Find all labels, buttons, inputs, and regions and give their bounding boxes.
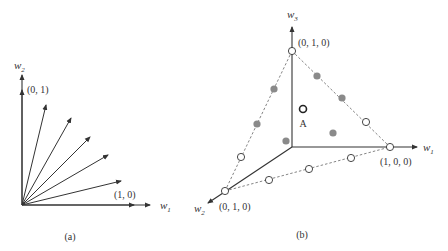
- vertex-left: [221, 187, 228, 194]
- vertex-top-label: (0, 1, 0): [298, 37, 330, 49]
- w2-axis: [208, 147, 292, 203]
- vector-rays: [22, 90, 134, 205]
- gray-point: [313, 72, 320, 79]
- gray-point: [253, 120, 260, 127]
- w2-axis-label: w2: [14, 59, 25, 74]
- point-a: [300, 106, 307, 113]
- vertex-right-label: (1, 0, 0): [380, 156, 412, 168]
- label-0-1: (0, 1): [27, 84, 49, 96]
- open-point: [265, 176, 272, 183]
- vertex-left-label: (0, 1, 0): [219, 201, 251, 213]
- diagram-canvas: w2 w1 (0, 1) (1, 0) (a): [0, 0, 448, 251]
- caption-a: (a): [64, 231, 75, 243]
- open-points: [221, 47, 393, 194]
- gray-point: [270, 85, 277, 92]
- gray-point: [282, 137, 289, 144]
- gray-point: [329, 129, 336, 136]
- point-a-label: A: [299, 118, 307, 129]
- gray-point: [338, 94, 345, 101]
- caption-b: (b): [296, 229, 308, 241]
- label-1-0: (1, 0): [114, 189, 136, 201]
- w1-axis-label: w1: [160, 199, 171, 214]
- open-point: [237, 153, 244, 160]
- vertex-top: [288, 47, 295, 54]
- open-point: [305, 165, 312, 172]
- panel-a: w2 w1 (0, 1) (1, 0) (a): [14, 59, 171, 243]
- open-point: [362, 118, 369, 125]
- ray: [22, 105, 46, 205]
- ray: [22, 181, 121, 205]
- panel-b: A w3 w1 w2 (0, 1, 0) (1, 0, 0) (0, 1, 0)…: [194, 8, 434, 241]
- vertex-right: [386, 143, 393, 150]
- w1-axis-label: w1: [423, 141, 434, 156]
- open-point: [347, 154, 354, 161]
- ray: [22, 118, 71, 205]
- w3-axis-label: w3: [287, 8, 298, 23]
- w2-axis-label: w2: [194, 202, 205, 217]
